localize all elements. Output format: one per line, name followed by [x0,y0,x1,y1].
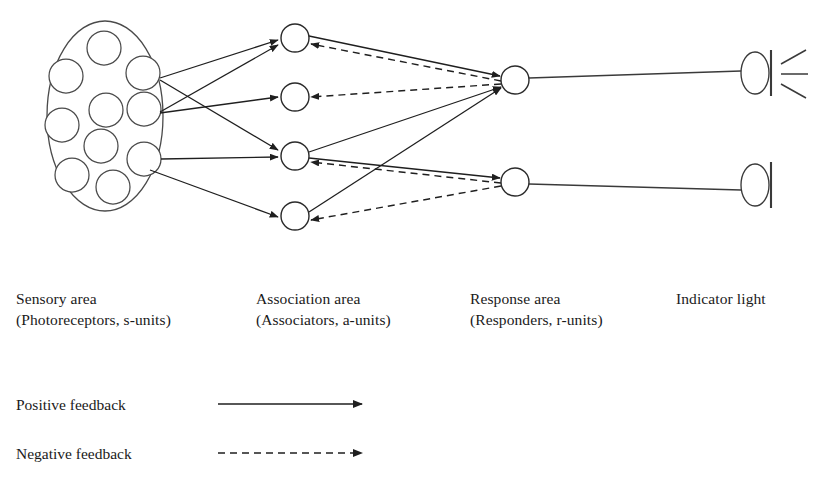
column-label-association-line1: Association area [256,288,391,309]
association-unit-a3 [281,142,309,170]
photoreceptor-s5 [127,92,161,126]
column-label-response: Response area (Responders, r-units) [470,288,603,330]
photoreceptor-s1 [87,31,121,65]
bulb-icon [741,164,769,206]
link-a3-r2 [309,158,500,178]
legend-arrows [218,404,362,453]
link-r2-a3 [311,162,501,183]
link-s3-a1 [160,40,278,78]
photoreceptor-s4 [89,93,123,127]
association-unit-a2 [281,83,309,111]
column-label-association-line2: (Associators, a-units) [256,309,391,330]
link-a3-r1 [309,87,501,152]
link-r1-a2 [311,84,501,97]
association-unit-a4 [281,202,309,230]
link-s8-a4 [150,170,278,217]
column-label-association: Association area (Associators, a-units) [256,288,391,330]
sensory-area-group [45,21,163,211]
column-label-indicator: Indicator light [676,288,766,309]
diagram-canvas: Sensory area (Photoreceptors, s-units) A… [0,0,828,488]
link-s5-a1 [160,45,278,112]
association-units-group [281,24,309,230]
photoreceptor-s8 [127,142,161,176]
association-unit-a1 [281,24,309,52]
link-r1-a1 [311,44,501,81]
response-units-group [501,66,529,196]
indicator-light-1 [741,50,808,98]
link-a1-r1 [309,36,500,76]
legend-label-positive: Positive feedback [16,394,126,415]
response-to-light-links [529,71,741,190]
column-label-sensory-line1: Sensory area [16,288,171,309]
response-unit-r2 [501,168,529,196]
photoreceptor-s7 [84,129,118,163]
column-label-response-line1: Response area [470,288,603,309]
sensory-to-association-links [150,40,278,217]
wire-r2-light2 [529,184,741,190]
link-s5-a2 [160,97,278,113]
light-ray-upper-icon [781,50,806,64]
legend-label-negative: Negative feedback [16,443,132,464]
link-s8-a3 [161,157,278,159]
bulb-icon [741,52,769,94]
column-label-indicator-line1: Indicator light [676,288,766,309]
response-unit-r1 [501,66,529,94]
column-label-sensory: Sensory area (Photoreceptors, s-units) [16,288,171,330]
indicator-light-2 [741,162,771,208]
light-ray-lower-icon [781,84,806,98]
link-s3-a3 [160,80,278,150]
wire-r1-light1 [529,71,741,78]
link-a4-r1 [309,88,501,212]
photoreceptor-s6 [45,108,79,142]
photoreceptor-s10 [96,170,130,204]
photoreceptor-s2 [49,59,83,93]
link-r2-a4 [311,186,501,220]
column-label-sensory-line2: (Photoreceptors, s-units) [16,309,171,330]
photoreceptor-s3 [126,56,160,90]
column-label-response-line2: (Responders, r-units) [470,309,603,330]
photoreceptor-s9 [55,158,89,192]
